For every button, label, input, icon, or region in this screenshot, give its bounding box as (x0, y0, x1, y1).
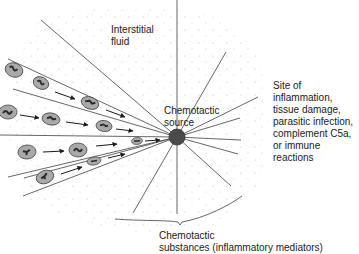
chemotactic-source-label: Chemotactic source (164, 105, 220, 129)
interstitial-fluid-label: Interstitial fluid (111, 24, 154, 48)
chemotactic-substances-label: Chemotactic substances (inflammatory med… (159, 230, 323, 254)
chemotactic-source-icon (169, 129, 185, 145)
inflammation-site-label: Site of inflammation, tissue damage, par… (273, 80, 359, 164)
leukocyte-cell (0, 105, 17, 119)
leukocyte-cell (69, 143, 87, 157)
